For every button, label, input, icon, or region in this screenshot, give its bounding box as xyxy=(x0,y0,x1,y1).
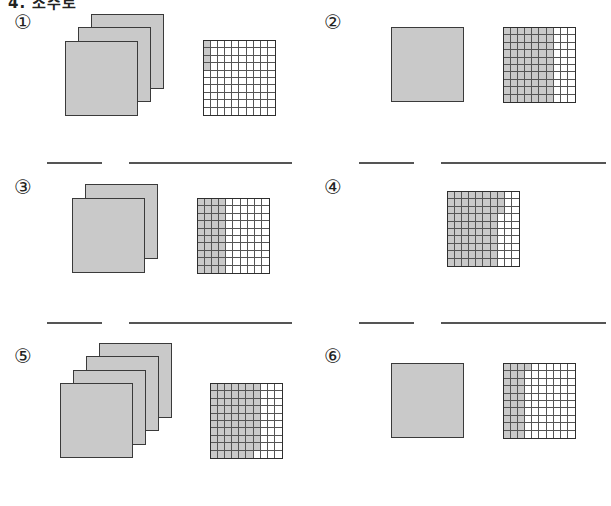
grid-cell xyxy=(218,436,225,443)
grid-cell xyxy=(268,41,275,48)
grid-cell xyxy=(225,63,232,70)
answer-line-short[interactable] xyxy=(359,322,414,324)
answer-line-long[interactable] xyxy=(441,322,606,324)
grid-cell xyxy=(248,236,255,243)
grid-cell xyxy=(511,408,518,415)
grid-cell xyxy=(561,408,568,415)
answer-line-long[interactable] xyxy=(129,162,292,164)
grid-cell xyxy=(255,214,262,221)
grid-cell xyxy=(539,364,546,371)
grid-cell xyxy=(512,259,519,266)
grid-cell xyxy=(504,58,511,65)
grid-cell xyxy=(211,443,218,450)
grid-cell xyxy=(261,93,268,100)
grid-cell xyxy=(261,41,268,48)
grid-cell xyxy=(248,251,255,258)
grid-cell xyxy=(261,78,268,85)
grid-cell xyxy=(498,199,505,206)
grid-cell xyxy=(561,58,568,65)
grid-cell xyxy=(247,48,254,55)
grid-cell xyxy=(225,421,232,428)
grid-cell xyxy=(225,391,232,398)
grid-cell xyxy=(211,406,218,413)
grid-cell xyxy=(262,206,269,213)
grid-cell xyxy=(505,229,512,236)
grid-cell xyxy=(491,236,498,243)
grid-cell xyxy=(511,371,518,378)
grid-cell xyxy=(226,221,233,228)
grid-cell xyxy=(205,266,212,273)
grid-cell xyxy=(218,63,225,70)
grid-cell xyxy=(205,221,212,228)
grid-cell xyxy=(568,401,575,408)
answer-line-long[interactable] xyxy=(129,322,292,324)
grid-cell xyxy=(568,35,575,42)
grid-cell xyxy=(275,443,282,450)
grid-cell xyxy=(248,221,255,228)
grid-cell xyxy=(218,56,225,63)
grid-cell xyxy=(462,214,469,221)
problem-number-1: ① xyxy=(14,12,32,32)
grid-cell xyxy=(225,100,232,107)
answer-line-long[interactable] xyxy=(441,162,606,164)
grid-cell xyxy=(262,214,269,221)
grid-cell xyxy=(248,214,255,221)
full-square xyxy=(391,27,464,102)
grid-cell xyxy=(241,236,248,243)
grid-cell xyxy=(483,236,490,243)
grid-cell xyxy=(532,50,539,57)
grid-cell xyxy=(254,78,261,85)
grid-cell xyxy=(568,72,575,79)
answer-line-short[interactable] xyxy=(47,162,102,164)
grid-cell xyxy=(518,364,525,371)
grid-cell xyxy=(518,87,525,94)
grid-cell xyxy=(246,443,253,450)
grid-cell xyxy=(547,65,554,72)
grid-cell xyxy=(491,192,498,199)
grid-cell xyxy=(547,28,554,35)
grid-cell xyxy=(254,71,261,78)
grid-cell xyxy=(226,214,233,221)
grid-cell xyxy=(511,28,518,35)
grid-cell xyxy=(568,431,575,438)
grid-cell xyxy=(198,199,205,206)
grid-cell xyxy=(232,48,239,55)
grid-cell xyxy=(511,401,518,408)
grid-cell xyxy=(547,50,554,57)
grid-cell xyxy=(226,236,233,243)
grid-cell xyxy=(198,221,205,228)
grid-cell xyxy=(248,229,255,236)
grid-cell xyxy=(483,251,490,258)
grid-cell xyxy=(491,244,498,251)
grid-cell xyxy=(225,78,232,85)
grid-cell xyxy=(255,243,262,250)
answer-line-short[interactable] xyxy=(359,162,414,164)
grid-cell xyxy=(539,416,546,423)
grid-cell xyxy=(491,222,498,229)
grid-cell xyxy=(504,408,511,415)
grid-cell xyxy=(539,386,546,393)
grid-cell xyxy=(241,258,248,265)
grid-cell xyxy=(212,221,219,228)
answer-line-short[interactable] xyxy=(47,322,102,324)
grid-cell xyxy=(547,379,554,386)
grid-cell xyxy=(218,443,225,450)
grid-cell xyxy=(268,100,275,107)
grid-cell xyxy=(532,431,539,438)
grid-cell xyxy=(554,408,561,415)
grid-cell xyxy=(518,72,525,79)
grid-cell xyxy=(211,63,218,70)
hundred-grid-1 xyxy=(203,40,276,116)
grid-cell xyxy=(232,41,239,48)
grid-cell xyxy=(462,199,469,206)
grid-cell xyxy=(248,243,255,250)
grid-cell xyxy=(568,87,575,94)
grid-cell xyxy=(491,259,498,266)
grid-cell xyxy=(219,206,226,213)
grid-cell xyxy=(198,266,205,273)
grid-cell xyxy=(532,416,539,423)
grid-cell xyxy=(268,85,275,92)
grid-cell xyxy=(205,214,212,221)
grid-cell xyxy=(532,408,539,415)
grid-cell xyxy=(261,63,268,70)
